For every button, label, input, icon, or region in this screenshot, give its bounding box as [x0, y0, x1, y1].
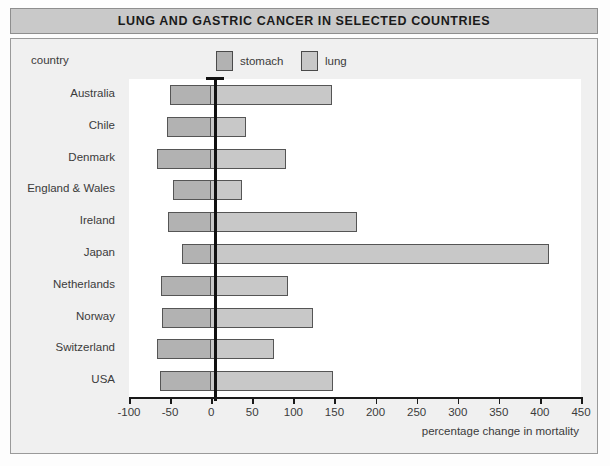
bar-stomach — [157, 149, 211, 169]
bar-stomach — [170, 85, 211, 105]
bar-lung — [211, 85, 332, 105]
axis-tick — [129, 397, 131, 404]
axis-tick-label: 350 — [489, 406, 508, 418]
bar-lung — [211, 308, 313, 328]
axis-tick — [499, 397, 501, 404]
bar-group — [129, 333, 581, 365]
bar-group — [129, 174, 581, 206]
axis-tick-label: 100 — [284, 406, 303, 418]
bar-stomach — [160, 371, 211, 391]
bar-group — [129, 206, 581, 238]
axis-tick — [417, 397, 419, 404]
legend-item-lung: lung — [301, 51, 347, 71]
bar-lung — [211, 371, 333, 391]
axis-tick-label: 50 — [246, 406, 259, 418]
category-label: Japan — [11, 246, 115, 258]
axis-tick — [334, 397, 336, 404]
category-label: Norway — [11, 310, 115, 322]
x-axis-title: percentage change in mortality — [422, 425, 579, 437]
bar-stomach — [182, 244, 211, 264]
axis-line — [129, 397, 581, 399]
bar-group — [129, 111, 581, 143]
bar-group — [129, 79, 581, 111]
legend-country-label: country — [31, 54, 69, 66]
bar-group — [129, 302, 581, 334]
axis-tick-label: 300 — [448, 406, 467, 418]
bar-lung — [211, 339, 273, 359]
legend-item-stomach: stomach — [216, 51, 283, 71]
category-label: USA — [11, 373, 115, 385]
category-label: Chile — [11, 119, 115, 131]
chart-title-bar: LUNG AND GASTRIC CANCER IN SELECTED COUN… — [10, 8, 598, 34]
axis-tick — [170, 397, 172, 404]
axis-tick — [211, 397, 213, 404]
axis-tick-label: 150 — [325, 406, 344, 418]
legend-label-stomach: stomach — [240, 55, 283, 67]
bar-stomach — [162, 308, 211, 328]
bar-group — [129, 365, 581, 397]
bar-group — [129, 238, 581, 270]
axis-tick — [458, 397, 460, 404]
category-axis-labels: AustraliaChileDenmarkEngland & WalesIrel… — [11, 79, 123, 397]
axis-tick-label: 200 — [366, 406, 385, 418]
category-label: Ireland — [11, 214, 115, 226]
axis-tick-label: 0 — [208, 406, 214, 418]
axis-tick-label: -50 — [162, 406, 179, 418]
axis-tick-label: 400 — [530, 406, 549, 418]
axis-tick-label: 450 — [571, 406, 590, 418]
axis-tick — [252, 397, 254, 404]
bar-stomach — [173, 180, 212, 200]
bar-group — [129, 143, 581, 175]
page-title: LUNG AND GASTRIC CANCER IN SELECTED COUN… — [118, 14, 490, 28]
bar-stomach — [161, 276, 211, 296]
axis-tick — [581, 397, 583, 404]
legend-swatch-stomach — [216, 51, 233, 71]
legend-swatch-lung — [301, 51, 318, 71]
bar-lung — [211, 149, 286, 169]
bar-lung — [211, 244, 549, 264]
bar-group — [129, 270, 581, 302]
chart-page: LUNG AND GASTRIC CANCER IN SELECTED COUN… — [0, 0, 610, 466]
category-label: Australia — [11, 87, 115, 99]
bar-stomach — [167, 117, 211, 137]
axis-tick — [293, 397, 295, 404]
plot-area — [129, 79, 581, 397]
category-label: Switzerland — [11, 341, 115, 353]
category-label: England & Wales — [11, 182, 115, 194]
axis-tick-label: -100 — [117, 406, 140, 418]
bar-stomach — [168, 212, 211, 232]
chart-panel: country stomach lung AustraliaChileDenma… — [10, 38, 598, 454]
category-label: Netherlands — [11, 278, 115, 290]
legend-label-lung: lung — [325, 55, 347, 67]
bar-stomach — [157, 339, 211, 359]
bar-lung — [211, 212, 357, 232]
axis-tick-label: 250 — [407, 406, 426, 418]
zero-line — [214, 77, 217, 401]
legend: country stomach lung — [11, 51, 597, 75]
axis-tick — [540, 397, 542, 404]
category-label: Denmark — [11, 151, 115, 163]
bar-lung — [211, 276, 288, 296]
axis-tick — [376, 397, 378, 404]
value-axis: -100-50050100150200250300350400450 — [129, 397, 581, 398]
